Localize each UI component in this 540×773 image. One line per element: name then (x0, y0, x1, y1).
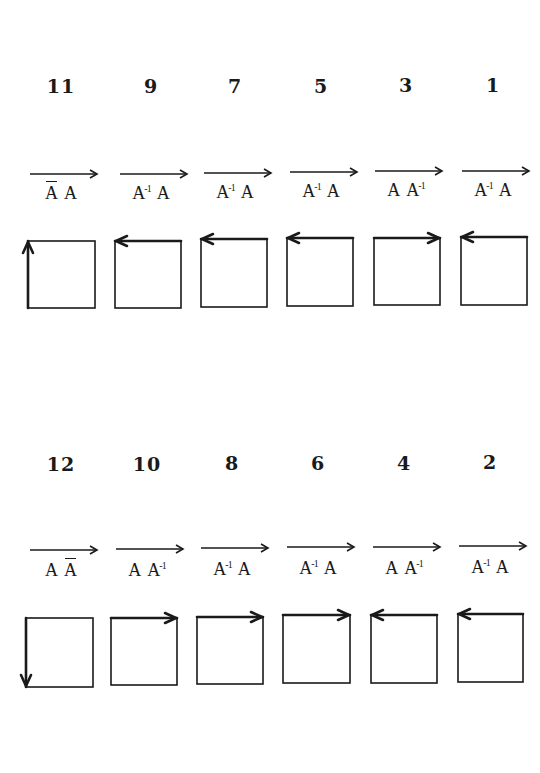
term-a-inverse: A-1 (132, 183, 150, 204)
term-a-inverse: A-1 (404, 558, 422, 579)
right-arrow-icon (192, 167, 278, 179)
product-label: AA (18, 560, 104, 581)
product-label: A-1A (192, 182, 278, 203)
cell-number: 9 (108, 75, 194, 97)
cell-number: 4 (361, 452, 447, 474)
product-label: AA-1 (361, 558, 447, 579)
right-arrow-icon (363, 165, 449, 177)
cell-number: 5 (278, 75, 364, 97)
right-arrow-icon (189, 542, 275, 554)
square-3 (366, 230, 448, 313)
product-label: A-1A (278, 181, 364, 202)
square-4 (363, 607, 445, 691)
term-a: A (324, 558, 337, 579)
term-a-inverse: A-1 (216, 182, 234, 203)
product-label: AA-1 (363, 180, 449, 201)
term-a-inverse: A-1 (302, 181, 320, 202)
right-arrow-icon (361, 541, 447, 553)
right-arrow-icon (108, 168, 194, 180)
term-a: A (128, 560, 141, 581)
term-a: A (238, 559, 251, 580)
square-1 (453, 229, 535, 313)
term-a: A (241, 182, 254, 203)
term-a: A (157, 183, 170, 204)
square-6 (275, 607, 358, 691)
term-a: A (385, 558, 398, 579)
term-a-inverse: A-1 (147, 560, 165, 581)
square-8 (189, 609, 271, 692)
product-label: A-1A (450, 180, 536, 201)
term-a-inverse: A-1 (406, 180, 424, 201)
product-label: A-1A (275, 558, 361, 579)
square-5 (279, 230, 361, 314)
square-11 (20, 233, 103, 316)
term-a: A (45, 560, 58, 581)
product-label: AA (18, 183, 104, 204)
square-9 (107, 233, 189, 316)
term-a-inverse: A-1 (471, 557, 489, 578)
cell-number: 7 (192, 75, 278, 97)
term-a-inverse: A-1 (213, 559, 231, 580)
square-12 (18, 610, 101, 695)
cell-number: 8 (189, 452, 275, 474)
cell-number: 11 (18, 75, 104, 97)
term-a: A (496, 557, 509, 578)
cell-number: 6 (275, 452, 361, 474)
product-label: AA-1 (104, 560, 190, 581)
cell-number: 1 (450, 74, 536, 96)
product-label: A-1A (447, 557, 533, 578)
product-label: A-1A (189, 559, 275, 580)
cell-number: 12 (18, 453, 104, 475)
right-arrow-icon (278, 166, 364, 178)
square-7 (193, 231, 275, 315)
product-label: A-1A (108, 183, 194, 204)
cell-number: 3 (363, 74, 449, 96)
right-arrow-icon (275, 541, 361, 553)
right-arrow-icon (18, 544, 104, 556)
right-arrow-icon (450, 165, 536, 177)
right-arrow-icon (104, 543, 190, 555)
term-a-inverse: A-1 (299, 558, 317, 579)
term-a-inverse: A-1 (474, 180, 492, 201)
cell-number: 2 (447, 451, 533, 473)
term-a: A (387, 180, 400, 201)
square-10 (103, 610, 185, 693)
right-arrow-icon (447, 540, 533, 552)
cell-number: 10 (104, 453, 190, 475)
term-a: A (499, 180, 512, 201)
term-a-bar: A (45, 183, 58, 204)
term-a-bar: A (64, 560, 77, 581)
term-a: A (327, 181, 340, 202)
square-2 (450, 606, 531, 690)
term-a: A (64, 183, 77, 204)
right-arrow-icon (18, 168, 104, 180)
